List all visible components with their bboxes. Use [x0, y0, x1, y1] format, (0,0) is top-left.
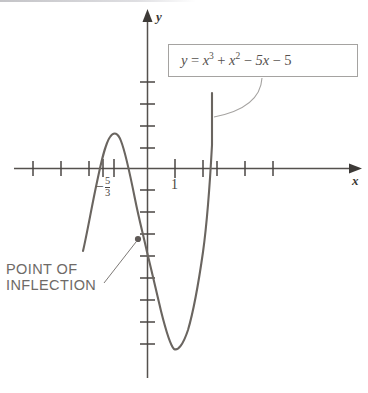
fraction-minus-sign: − — [96, 179, 104, 195]
inflection-leader-line — [104, 242, 136, 283]
inflection-point-dot — [135, 236, 141, 242]
equation-term3: 5x — [255, 52, 269, 68]
x-axis-arrowhead — [349, 164, 362, 174]
equation-term4: 5 — [284, 52, 291, 68]
figure-canvas: y=x3+x2−5x−5 y x 1 − 5 3 POINT OF INFLEC… — [0, 0, 368, 393]
equation-op2: − — [240, 52, 255, 68]
equation-leader-line — [214, 78, 262, 117]
x-tick-label-one: 1 — [171, 178, 178, 192]
equation-op1: + — [214, 52, 229, 68]
callout-line-2: INFLECTION — [6, 277, 96, 293]
fraction-denominator: 3 — [105, 187, 110, 199]
fraction-numerator: 5 — [105, 176, 110, 187]
callout-line-1: POINT OF — [6, 261, 96, 277]
equation-op3: − — [269, 52, 284, 68]
equation-equals: = — [187, 52, 202, 68]
x-axis-label: x — [352, 174, 359, 187]
y-axis-label: y — [156, 10, 162, 23]
y-axis-arrowhead — [143, 9, 153, 22]
x-tick-label-minus-five-thirds: − 5 3 — [96, 176, 110, 198]
point-of-inflection-callout: POINT OF INFLECTION — [6, 261, 96, 293]
fraction: 5 3 — [105, 176, 110, 198]
equation-text: y=x3+x2−5x−5 — [181, 52, 292, 69]
